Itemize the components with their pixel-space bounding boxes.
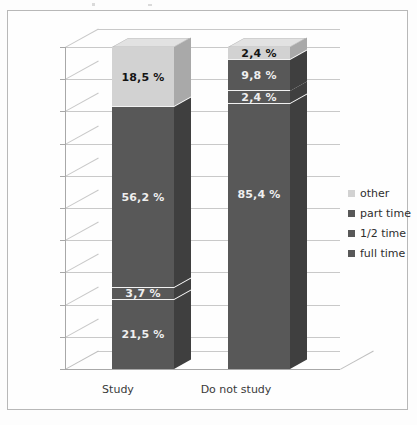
backwall-top-edge [98, 29, 340, 30]
segment-label-do-not-study-half-time: 2,4 % [228, 90, 290, 103]
depth-line-70 [65, 125, 99, 144]
depth-line-20 [65, 286, 99, 305]
segment-study-other[interactable]: 18,5 % [112, 47, 174, 107]
legend-label: part time [360, 207, 411, 220]
depth-line-10 [65, 318, 99, 337]
floor-diagonal-left [65, 351, 99, 370]
legend-item-part-time[interactable]: part time [348, 203, 411, 223]
segment-label-study-part-time: 56,2 % [112, 190, 174, 203]
segment-do-not-study-other[interactable]: 2,4 % [228, 47, 290, 60]
segment-label-do-not-study-part-time: 9,8 % [228, 68, 290, 81]
axis-x-line [65, 369, 340, 370]
segment-do-not-study-full-time[interactable]: 85,4 % [228, 104, 290, 369]
bar-study[interactable]: 18,5 % 56,2 % 3,7 % 21, [112, 47, 174, 369]
segment-label-study-full-time: 21,5 % [112, 328, 174, 341]
segment-do-not-study-half-time[interactable]: 2,4 % [228, 91, 290, 104]
legend-swatch-icon [348, 250, 355, 257]
chart-frame: 100% 90% 80% 70% 60% 50% [7, 10, 408, 410]
legend-swatch-icon [348, 210, 355, 217]
depth-line-40 [65, 222, 99, 241]
bar-do-not-study[interactable]: 2,4 % 9,8 % 2,4 % 85,4 [228, 47, 290, 369]
depth-line-50 [65, 190, 99, 209]
legend-swatch-icon [348, 190, 355, 197]
segment-label-study-half-time: 3,7 % [112, 287, 174, 300]
legend-item-full-time[interactable]: full time [348, 243, 411, 263]
scan-speckle [148, 4, 152, 6]
segment-label-do-not-study-other: 2,4 % [228, 46, 290, 59]
legend-label: other [360, 187, 389, 200]
legend-item-half-time[interactable]: 1/2 time [348, 223, 411, 243]
segment-label-do-not-study-full-time: 85,4 % [228, 187, 290, 200]
segment-side-face [174, 98, 191, 287]
floor-diagonal-right [340, 351, 374, 370]
scan-speckle [92, 3, 95, 6]
depth-line-80 [65, 93, 99, 112]
legend-label: 1/2 time [360, 227, 406, 240]
depth-line-60 [65, 157, 99, 176]
legend-swatch-icon [348, 230, 355, 237]
chart-root: 100% 90% 80% 70% 60% 50% [0, 0, 417, 425]
depth-line-90 [65, 61, 99, 80]
segment-side-face [290, 94, 307, 369]
segment-label-study-other: 18,5 % [112, 70, 174, 83]
segment-study-part-time[interactable]: 56,2 % [112, 107, 174, 288]
segment-study-half-time[interactable]: 3,7 % [112, 288, 174, 300]
segment-side-face [174, 290, 191, 369]
chart-legend: other part time 1/2 time full time [348, 183, 411, 263]
xtick-label-study: Study [84, 383, 152, 396]
legend-label: full time [360, 247, 405, 260]
segment-side-face [174, 38, 191, 106]
segment-face [228, 104, 290, 369]
segment-do-not-study-part-time[interactable]: 9,8 % [228, 60, 290, 92]
segment-study-full-time[interactable]: 21,5 % [112, 300, 174, 369]
plot-area: 100% 90% 80% 70% 60% 50% [65, 47, 340, 369]
axis-y-line [65, 47, 66, 370]
depth-line-30 [65, 254, 99, 273]
depth-line-100 [65, 29, 99, 48]
xtick-label-do-not-study: Do not study [193, 383, 279, 396]
legend-item-other[interactable]: other [348, 183, 411, 203]
